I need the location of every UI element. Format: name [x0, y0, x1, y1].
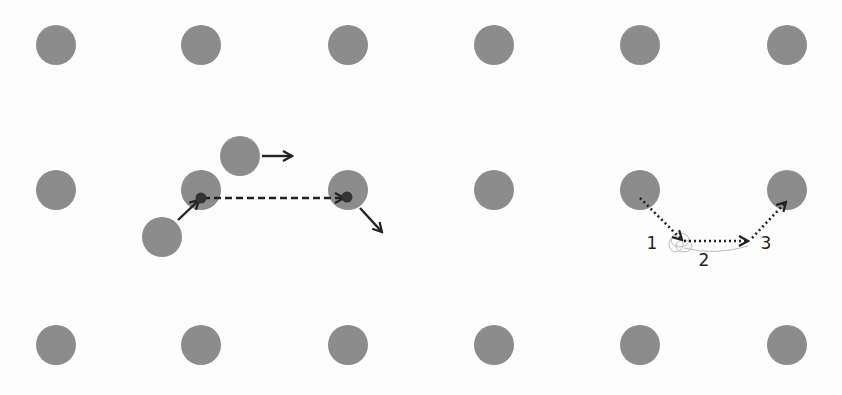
- grid-dot: [767, 325, 807, 365]
- particle-dot: [220, 136, 260, 176]
- grid-dot: [36, 25, 76, 65]
- grid-dot: [181, 170, 221, 210]
- faint-curve: [684, 246, 748, 252]
- grid-dot: [767, 25, 807, 65]
- grid-dot: [328, 325, 368, 365]
- diagram-canvas: 123: [0, 0, 842, 395]
- step-label-3: 3: [761, 233, 772, 253]
- grid-dot: [328, 170, 368, 210]
- step-label-2: 2: [699, 250, 710, 270]
- grid-dot: [181, 325, 221, 365]
- grid-dot: [620, 25, 660, 65]
- grid-dot: [620, 170, 660, 210]
- grid-dot: [36, 170, 76, 210]
- grid-dot: [767, 170, 807, 210]
- left-diagram: [142, 136, 382, 257]
- grid-dot: [36, 325, 76, 365]
- grid-dot: [474, 325, 514, 365]
- particle-dot: [142, 217, 182, 257]
- grid-dots: [36, 25, 807, 365]
- grid-dot: [620, 325, 660, 365]
- arrow-solid: [360, 208, 382, 232]
- grid-dot: [474, 25, 514, 65]
- grid-dot: [474, 170, 514, 210]
- grid-dot: [181, 25, 221, 65]
- grid-dot: [328, 25, 368, 65]
- step-label-1: 1: [647, 233, 658, 253]
- position-point: [342, 192, 353, 203]
- motion-diagram: 123: [0, 0, 842, 395]
- position-point: [196, 193, 207, 204]
- right-diagram: 123: [640, 198, 786, 270]
